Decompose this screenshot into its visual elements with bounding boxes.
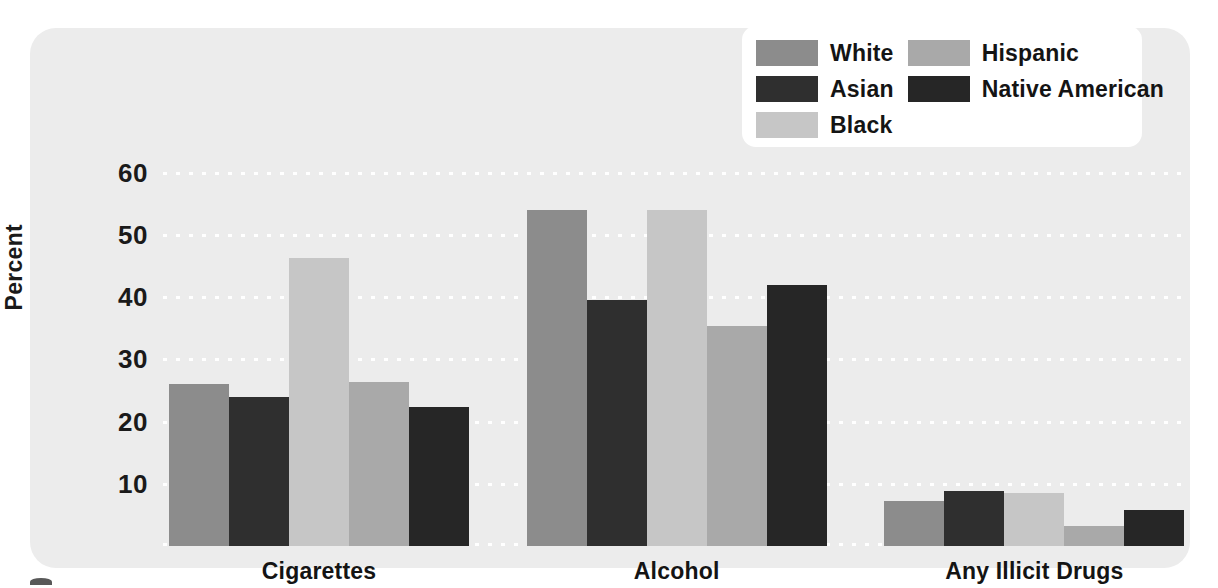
bar-chart-figure: Percent 102030405060 CigarettesAlcoholAn… [0,0,1218,588]
legend-swatch [908,76,970,102]
bar [884,501,944,546]
y-axis-tick-label: 60 [58,157,148,188]
legend-item[interactable]: White [756,40,894,66]
bar [647,210,707,546]
bar [527,210,587,546]
legend-label: Hispanic [982,40,1079,67]
legend-label: White [830,40,894,67]
bar [944,491,1004,546]
bar [1124,510,1184,546]
legend-column: HispanicNative American [908,40,1164,138]
legend-label: Native American [982,76,1164,103]
legend-column: WhiteAsianBlack [756,40,894,138]
legend-swatch [756,40,818,66]
legend-label: Asian [830,76,894,103]
bar [1004,493,1064,546]
bar [707,326,767,546]
x-axis-category-label: Any Illicit Drugs [884,558,1184,585]
legend-columns: WhiteAsianBlackHispanicNative American [756,40,1164,138]
bar [1064,526,1124,546]
legend-swatch [908,40,970,66]
bar-group: Cigarettes [169,154,469,546]
legend-swatch [756,76,818,102]
y-axis-tick-label: 50 [58,219,148,250]
legend-item[interactable]: Black [756,112,894,138]
legend-swatch [756,112,818,138]
x-axis-category-label: Cigarettes [169,558,469,585]
bar [767,285,827,546]
x-axis-category-label: Alcohol [527,558,827,585]
bar [349,382,409,546]
bar-group: Alcohol [527,154,827,546]
bar-group: Any Illicit Drugs [884,154,1184,546]
y-axis-label: Percent [1,224,28,310]
legend-label: Black [830,112,892,139]
bar [229,397,289,546]
plot-area: 102030405060 CigarettesAlcoholAny Illici… [163,154,1198,546]
chart-legend: WhiteAsianBlackHispanicNative American [742,26,1142,147]
bar [289,258,349,546]
bars [527,154,827,546]
bar [587,300,647,546]
bars [884,154,1184,546]
y-axis-tick-label: 10 [58,468,148,499]
bar [409,407,469,546]
caption-marker-icon [30,578,52,585]
legend-item[interactable]: Native American [908,76,1164,102]
bar [169,384,229,546]
y-axis-tick-label: 30 [58,344,148,375]
legend-item[interactable]: Asian [756,76,894,102]
y-axis-tick-label: 20 [58,406,148,437]
bars [169,154,469,546]
y-axis-tick-label: 40 [58,282,148,313]
legend-item[interactable]: Hispanic [908,40,1164,66]
